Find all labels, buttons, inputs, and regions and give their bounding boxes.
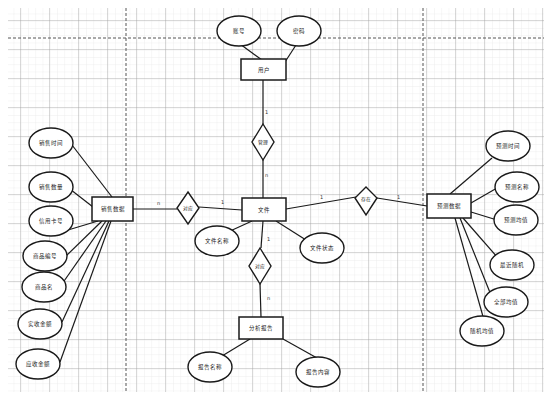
entity-user[interactable]: 用户 (241, 59, 286, 80)
attr-report-content[interactable]: 报告内容 (296, 357, 340, 387)
attr-label: 销售时间 (39, 139, 63, 147)
relationship-correspond-label: 对应 (183, 205, 193, 212)
card-file-generate: 1 (267, 236, 270, 242)
relationship-manage-label: 管理 (258, 139, 268, 146)
attr-file-name[interactable]: 文件名称 (195, 226, 239, 256)
attr-forecast-random-mean[interactable]: 随机均值 (460, 316, 504, 346)
attr-label: 报告名称 (198, 363, 222, 371)
relationship-exist-label: 存在 (361, 196, 371, 202)
attr-label: 预测均值 (504, 216, 528, 224)
attr-label: 预测时间 (496, 142, 520, 150)
card-user-manage: 1 (265, 109, 268, 115)
attr-label: 信用卡号 (39, 217, 63, 225)
attr-label: 随机均值 (470, 327, 494, 335)
entity-user-label: 用户 (258, 66, 270, 74)
card-manage-file: n (265, 172, 268, 178)
attr-label: 商品编号 (33, 252, 57, 260)
entity-forecast-label: 预测数据 (437, 202, 461, 210)
attr-label: 账号 (233, 27, 245, 35)
attr-forecast-recent-random[interactable]: 最近随机 (490, 250, 534, 280)
attr-sales-product-id[interactable]: 商品编号 (23, 241, 67, 271)
relationship-generate-label: 对应 (255, 263, 265, 270)
card-file-exist: 1 (320, 194, 323, 200)
entity-sales[interactable]: 销售数据 (92, 197, 133, 221)
attr-user-password[interactable]: 密码 (277, 16, 321, 46)
card-generate-report: n (267, 295, 270, 301)
attr-label: 全部均值 (494, 298, 518, 306)
card-sales-correspond: n (157, 200, 160, 206)
attr-label: 文件名称 (205, 237, 229, 245)
er-diagram-canvas: 1 n n 1 1 1 1 n 用户 文件 销售数据 预测数据 分析报告 管理 … (0, 0, 552, 401)
entity-sales-label: 销售数据 (101, 205, 125, 213)
attr-label: 应收金额 (26, 360, 50, 368)
attr-sales-card[interactable]: 信用卡号 (29, 206, 73, 236)
attr-sales-time[interactable]: 销售时间 (29, 128, 73, 158)
attr-label: 销售数量 (39, 183, 63, 191)
attr-forecast-mean[interactable]: 预测均值 (494, 205, 538, 235)
card-exist-forecast: 1 (397, 194, 400, 200)
attr-label: 最近随机 (500, 261, 524, 269)
attr-sales-quantity[interactable]: 销售数量 (29, 172, 73, 202)
entity-file-label: 文件 (258, 206, 270, 214)
attr-label: 预测名称 (505, 183, 529, 191)
attr-report-name[interactable]: 报告名称 (188, 352, 232, 382)
entity-forecast[interactable]: 预测数据 (427, 194, 471, 218)
attr-label: 文件状态 (310, 244, 334, 252)
entity-report-label: 分析报告 (249, 324, 273, 332)
attr-label: 实收金额 (28, 320, 52, 328)
card-correspond-file: 1 (221, 199, 224, 205)
attr-label: 商品名 (35, 283, 53, 291)
attr-label: 密码 (293, 27, 305, 35)
attr-label: 报告内容 (306, 368, 330, 376)
entity-file[interactable]: 文件 (242, 198, 286, 221)
attr-forecast-name[interactable]: 预测名称 (495, 172, 539, 202)
attr-sales-product-name[interactable]: 商品名 (22, 272, 66, 302)
attr-file-status[interactable]: 文件状态 (300, 233, 344, 263)
attr-user-account[interactable]: 账号 (217, 16, 261, 46)
attr-sales-receivable[interactable]: 应收金额 (16, 349, 60, 379)
entity-report[interactable]: 分析报告 (239, 317, 283, 339)
attr-sales-received[interactable]: 实收金额 (18, 309, 62, 339)
attr-forecast-time[interactable]: 预测时间 (486, 131, 530, 161)
attr-forecast-all-mean[interactable]: 全部均值 (484, 287, 528, 317)
